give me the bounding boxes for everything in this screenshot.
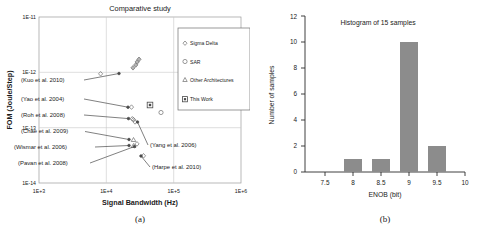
chart-b-title: Histogram of 15 samples — [340, 19, 416, 27]
bar — [344, 159, 362, 172]
annotation-label: (Yao et al. 2004) — [21, 96, 64, 102]
x-axis-a: 1E+3 1E+4 1E+5 1E+6 — [33, 188, 247, 194]
legend-item-other-architectures[interactable]: Other Architectures — [183, 77, 234, 83]
chart-a-title: Comparative study — [109, 4, 171, 13]
x-tick-label: 1E+5 — [168, 188, 180, 194]
annotation-label: (Harpe et al. 2010) — [152, 164, 201, 170]
y-tick-label: 1E-14 — [22, 180, 36, 186]
legend-label: This Work — [190, 96, 213, 102]
x-tick-label: 7.5 — [321, 179, 330, 186]
panel-label-a: (a) — [135, 214, 145, 224]
annotation-label: (Kuo et al. 2010) — [21, 77, 65, 83]
x-tick-label: 9.5 — [433, 179, 442, 186]
x-tick-labels-b: 7.5 8 8.5 9 9.5 10 — [321, 179, 469, 186]
bar — [428, 146, 446, 172]
y-tick-label: 10 — [290, 38, 298, 45]
panel-b-histogram-chart: Histogram of 15 samples 0 2 4 6 8 10 12 — [250, 0, 480, 227]
x-tick-label: 1E+3 — [33, 188, 45, 194]
annotation-label: (Wismar et al. 2006) — [14, 144, 67, 150]
annotation-label: (Chae et al. 2009) — [21, 128, 68, 134]
figure-container: Comparative study 1E-11 1E-12 1E-13 1E-1… — [0, 0, 480, 227]
y-tick-label: 4 — [293, 116, 297, 123]
bar — [400, 42, 418, 172]
data-point-this-work — [147, 102, 153, 108]
legend-a: Sigma Delta SAR Other Architectures This… — [178, 28, 250, 110]
y-tick-label: 1E-12 — [22, 69, 36, 75]
bars-b — [344, 42, 446, 172]
x-tick-label: 8.5 — [377, 179, 386, 186]
y-tick-label: 8 — [293, 64, 297, 71]
y-tick-label: 12 — [290, 13, 298, 20]
x-tick-label: 8 — [351, 179, 355, 186]
y-tick-label: 6 — [293, 90, 297, 97]
y-axis-title-a: FOM (Joule/Step) — [5, 70, 14, 130]
annotation-label: (Pavan et al. 2008) — [18, 160, 68, 166]
y-tick-label: 2 — [293, 142, 297, 149]
x-axis-b — [325, 172, 465, 176]
panel-label-b: (b) — [380, 214, 391, 224]
x-tick-label: 9 — [407, 179, 411, 186]
y-tick-labels-b: 0 2 4 6 8 10 12 — [290, 13, 298, 175]
panel-a-scatter-chart: Comparative study 1E-11 1E-12 1E-13 1E-1… — [0, 0, 250, 227]
y-axis-title-b: Number of samples — [268, 65, 276, 125]
legend-label: Sigma Delta — [190, 40, 218, 46]
bar — [372, 159, 390, 172]
x-axis-title-b: ENOB (bit) — [369, 191, 402, 199]
y-axis-b — [301, 16, 305, 172]
y-tick-label: 1E-11 — [23, 14, 37, 20]
legend-label: Other Architectures — [190, 77, 234, 83]
x-tick-label: 1E+4 — [100, 188, 112, 194]
x-tick-label: 1E+6 — [235, 188, 247, 194]
x-axis-title-a: Signal Bandwidth (Hz) — [102, 198, 178, 207]
y-tick-label: 0 — [293, 168, 297, 175]
annotation-label: (Yang et al. 2006) — [150, 142, 196, 148]
legend-item-this-work[interactable]: This Work — [182, 96, 213, 102]
legend-label: SAR — [190, 59, 201, 65]
x-tick-label: 10 — [461, 179, 469, 186]
annotation-label: (Roh et al. 2008) — [21, 112, 65, 118]
